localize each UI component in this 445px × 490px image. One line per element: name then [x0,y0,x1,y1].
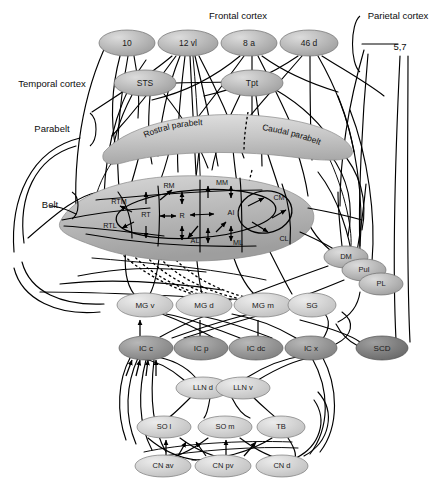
node-icx[interactable]: IC x [285,336,337,360]
node-cnd[interactable]: CN d [256,455,308,477]
node-tb[interactable]: TB [257,416,305,438]
node-area-46d[interactable]: 46 d [280,30,338,56]
parabelt-bracket [90,113,96,146]
node-tpt[interactable]: Tpt [221,70,283,96]
label-parietal-cortex: Parietal cortex [368,10,429,21]
node-mgv[interactable]: MG v [117,293,173,317]
diagram-canvas: Rostral parabelt Caudal parabelt [0,0,445,490]
node-cnav[interactable]: CN av [135,455,191,477]
parabelt-shape[interactable] [103,115,353,165]
node-sol[interactable]: SO l [137,416,191,438]
label-belt: Belt [42,199,59,210]
label-temporal-cortex: Temporal cortex [18,78,86,89]
label-parabelt: Parabelt [34,123,70,134]
node-icp[interactable]: IC p [174,336,228,360]
node-area-12vl[interactable]: 12 vl [158,30,218,56]
so-nodes[interactable]: SO l SO m TB [137,416,305,438]
node-som[interactable]: SO m [198,416,252,438]
cn-nodes[interactable]: CN av CN pv CN d [135,455,308,477]
node-scd[interactable]: SCD [356,336,408,360]
label-parietal-area-57: 5,7 [393,41,406,52]
frontal-cortex-nodes[interactable]: 10 12 vl 8 a 46 d [99,30,338,56]
node-mgm[interactable]: MG m [234,293,292,317]
node-pl[interactable]: PL [359,273,403,295]
node-cnpv[interactable]: CN pv [195,455,251,477]
label-frontal-cortex: Frontal cortex [209,10,267,21]
thalamus-lateral-nodes[interactable]: DM Pul PL [324,246,403,295]
node-llnv[interactable]: LLN v [216,377,270,399]
ic-nodes[interactable]: IC c IC p IC dc IC x SCD [119,336,408,360]
belt-shape[interactable] [59,176,313,261]
mgb-nodes[interactable]: MG v MG d MG m SG [117,293,336,317]
node-sts[interactable]: STS [114,70,176,96]
node-icdc[interactable]: IC dc [229,336,283,360]
node-area-10[interactable]: 10 [99,30,155,56]
connectivity-diagram: Rostral parabelt Caudal parabelt [0,0,445,490]
belt-region[interactable]: RTM RTL RM MM CM CL AL ML RT R AI [50,176,362,261]
node-area-8a[interactable]: 8 a [221,30,277,56]
node-mgd[interactable]: MG d [176,293,232,317]
node-sg[interactable]: SG [288,293,336,317]
node-icc[interactable]: IC c [119,336,173,360]
lln-nodes[interactable]: LLN d LLN v [176,377,270,399]
